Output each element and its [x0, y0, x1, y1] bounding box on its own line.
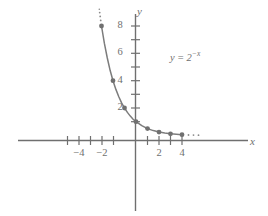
y-axis-label: y	[137, 6, 142, 17]
y-tick-label-8: 8	[113, 20, 127, 31]
plot-canvas	[0, 0, 268, 216]
y-tick-label-2: 2	[113, 102, 127, 113]
x-tick-label-4: 4	[173, 148, 191, 159]
equation-equals: =	[178, 52, 184, 63]
exponential-graph-figure: y x 8 6 4 2 −4 −2 2 4 y=2−x	[0, 0, 268, 216]
equation-annotation: y=2−x	[170, 50, 200, 63]
data-point	[157, 130, 162, 135]
data-point	[99, 24, 104, 29]
equation-lhs: y	[170, 52, 175, 63]
x-tick-label-2: 2	[150, 148, 168, 159]
equation-exponent: −x	[192, 49, 200, 58]
data-points	[99, 24, 184, 138]
dotted-continuation-upper	[99, 8, 102, 21]
data-point	[145, 126, 150, 131]
data-point	[180, 132, 185, 137]
x-tick-label-minus-2: −2	[93, 148, 111, 159]
data-point	[168, 131, 173, 136]
x-tick-label-minus-4: −4	[70, 148, 88, 159]
y-tick-label-6: 6	[113, 47, 127, 58]
data-point	[134, 119, 139, 124]
x-axis-label: x	[250, 136, 255, 147]
y-tick-label-4: 4	[113, 75, 127, 86]
dotted-continuation-right	[188, 134, 200, 136]
